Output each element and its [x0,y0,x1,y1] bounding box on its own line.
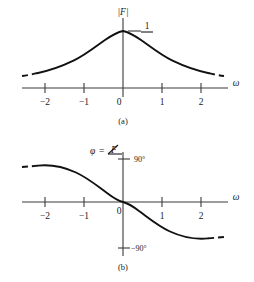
panel-a-curve-dash-right [209,73,224,76]
panel-b-ticklabel--2: −2 [40,211,50,221]
panel-a: −2 −1 0 1 2 |F| ω 1 (a) [22,7,240,126]
panel-a-peak-label: 1 [145,21,150,31]
panel-a-ticklabel-2: 2 [199,97,204,107]
panel-b-curve-dash-left [22,166,38,167]
panel-b-curve-dash-right [208,237,224,238]
panel-a-curve-dash-left [22,73,37,76]
panel-b: −2 −1 0 1 2 90° −90° φ = F ω [22,145,240,272]
panel-b-y-axis-label-F: F [110,145,117,155]
panel-a-ticklabel--2: −2 [40,97,50,107]
panel-a-ticklabel-0: 0 [117,97,122,107]
panel-b-y-axis-label-phi: φ [90,146,95,156]
panel-a-ticklabel--1: −1 [79,97,89,107]
panel-b-ticklabel-2: 2 [199,211,204,221]
panel-a-caption: (a) [118,116,128,126]
panel-b-x-axis-label: ω [233,192,240,202]
panel-b-ticklabel-1: 1 [160,211,165,221]
panel-b-ticklabel-90: 90° [134,155,145,164]
panel-a-y-axis-label: |F| [117,7,128,17]
panel-b-ticklabel--1: −1 [79,211,89,221]
panel-b-caption: (b) [118,262,128,272]
panel-a-ticklabel-1: 1 [160,97,165,107]
panel-b-ticklabel-0: 0 [117,206,122,216]
panel-b-y-axis-label-equals: = [99,146,104,156]
figure-svg: −2 −1 0 1 2 |F| ω 1 (a) [0,0,254,282]
panel-b-ticklabel--90: −90° [131,244,147,253]
panel-a-x-axis-label: ω [233,78,240,88]
figure-container: −2 −1 0 1 2 |F| ω 1 (a) [0,0,254,282]
